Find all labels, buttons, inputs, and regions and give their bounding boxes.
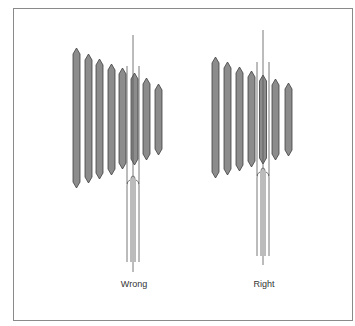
tool-outer-right [266, 172, 269, 256]
tool-outer-right [136, 180, 139, 262]
strip [108, 64, 115, 175]
strip [73, 48, 80, 188]
right-panel [212, 30, 292, 265]
wrong-panel [73, 35, 162, 272]
strip [285, 83, 292, 156]
tool-outer-left [127, 180, 130, 262]
strip [272, 79, 279, 160]
strip [236, 67, 243, 171]
tool-outer-left [257, 172, 260, 256]
strip [248, 71, 255, 167]
strip [85, 54, 92, 183]
strip [96, 59, 103, 179]
strip [212, 57, 219, 178]
strip [131, 73, 138, 165]
right-label: Right [253, 279, 274, 289]
strip [155, 84, 162, 155]
strip [119, 68, 126, 169]
wrong-label: Wrong [121, 279, 147, 289]
alignment-diagram [0, 0, 355, 326]
strip [224, 62, 231, 175]
strip [143, 78, 150, 160]
